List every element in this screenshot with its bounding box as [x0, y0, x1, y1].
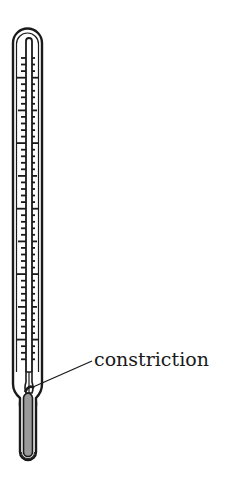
outer-tube-outline: [13, 29, 42, 372]
inner-tube-outline: [17, 33, 39, 372]
scale-ticks: [17, 58, 39, 359]
constriction-label-group: constriction: [33, 348, 209, 387]
thermometer-body: [13, 29, 42, 406]
capillary-outline: [26, 38, 32, 372]
tube-neck-right: [36, 372, 42, 406]
capillary: [26, 38, 32, 372]
tube-neck-left: [13, 372, 20, 406]
bulb-mercury: [24, 393, 33, 457]
thermometer-diagram: constriction: [0, 0, 230, 484]
constriction-label: constriction: [94, 348, 209, 370]
